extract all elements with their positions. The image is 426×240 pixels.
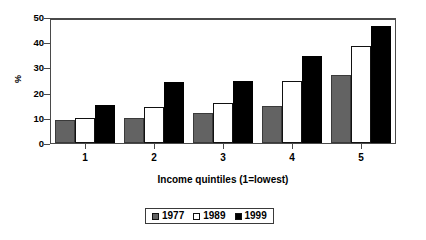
legend-label: 1989 <box>203 211 225 221</box>
bar-1989-q2 <box>144 107 164 143</box>
y-axis-tick-labels: 01020304050 <box>22 0 44 240</box>
bar-group <box>257 20 326 143</box>
x-axis-tick-label: 5 <box>341 152 381 163</box>
legend-swatch-icon <box>152 213 159 220</box>
x-axis-tick-label: 2 <box>134 152 174 163</box>
bar-1977-q1 <box>55 120 75 143</box>
legend-item-1977: 1977 <box>152 211 184 221</box>
legend-label: 1999 <box>245 211 267 221</box>
y-axis-tick-mark <box>44 18 50 19</box>
y-axis-tick-mark <box>44 119 50 120</box>
y-axis-tick-label: 10 <box>24 114 44 124</box>
y-axis-tick-label: 50 <box>24 13 44 23</box>
y-axis-tick-mark <box>44 94 50 95</box>
bar-1989-q5 <box>351 46 371 143</box>
bar-1977-q2 <box>124 118 144 143</box>
x-axis-tick-mark <box>85 144 86 149</box>
bar-1977-q5 <box>331 75 351 143</box>
bar-group <box>326 20 395 143</box>
bar-1989-q1 <box>75 118 95 143</box>
bar-1999-q1 <box>95 105 115 143</box>
y-axis-tick-mark <box>44 68 50 69</box>
legend-item-1989: 1989 <box>193 211 225 221</box>
y-axis-tick-mark <box>44 144 50 145</box>
bar-1989-q4 <box>282 81 302 143</box>
x-axis-tick-label: 3 <box>203 152 243 163</box>
x-axis-title: Income quintiles (1=lowest) <box>50 174 396 185</box>
bar-1977-q3 <box>193 113 213 143</box>
legend-item-1999: 1999 <box>235 211 267 221</box>
plot-area <box>51 20 395 143</box>
bar-1999-q2 <box>164 82 184 143</box>
bar-1977-q4 <box>262 106 282 143</box>
bar-group <box>51 20 120 143</box>
y-axis-tick-label: 20 <box>24 89 44 99</box>
y-axis-tick-mark <box>44 43 50 44</box>
x-axis-tick-mark <box>292 144 293 149</box>
y-axis-tick-label: 30 <box>24 63 44 73</box>
x-axis-tick-mark <box>361 144 362 149</box>
bar-1989-q3 <box>213 103 233 143</box>
legend-label: 1977 <box>162 211 184 221</box>
bar-chart-figure: % 01020304050 Income quintiles (1=lowest… <box>0 0 426 240</box>
plot-frame <box>50 18 396 144</box>
chart-legend: 197719891999 <box>145 208 274 224</box>
x-axis-tick-mark <box>223 144 224 149</box>
y-axis-tick-label: 0 <box>24 139 44 149</box>
bar-1999-q5 <box>371 26 391 143</box>
bar-1999-q4 <box>302 56 322 143</box>
x-axis-tick-label: 4 <box>272 152 312 163</box>
legend-swatch-icon <box>235 213 242 220</box>
legend-swatch-icon <box>193 213 200 220</box>
bar-1999-q3 <box>233 81 253 143</box>
bar-group <box>120 20 189 143</box>
x-axis-tick-label: 1 <box>65 152 105 163</box>
bar-group <box>189 20 258 143</box>
y-axis-tick-label: 40 <box>24 38 44 48</box>
x-axis-tick-mark <box>154 144 155 149</box>
